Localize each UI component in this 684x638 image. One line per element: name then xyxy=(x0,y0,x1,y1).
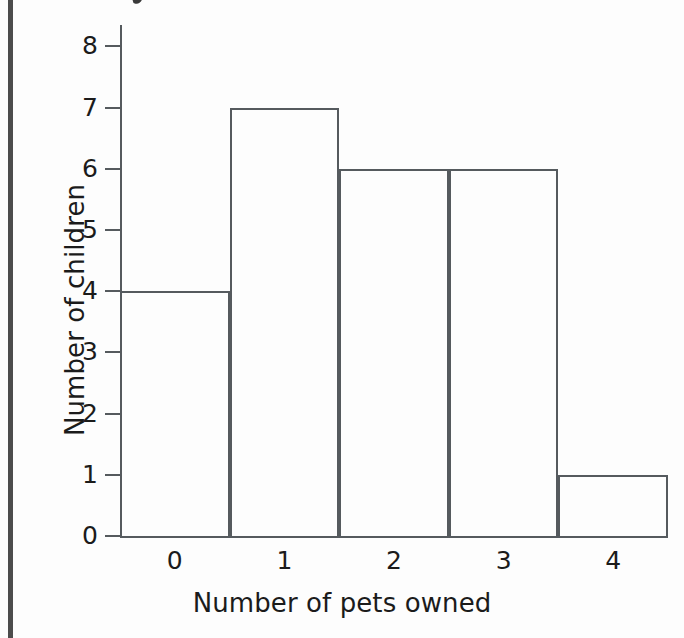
y-tick-mark xyxy=(105,351,121,353)
y-tick-mark xyxy=(105,107,121,109)
bar-2 xyxy=(339,169,449,538)
x-tick-label: 2 xyxy=(364,548,424,573)
x-tick-label: 3 xyxy=(474,548,534,573)
y-tick-mark xyxy=(105,229,121,231)
y-tick-mark xyxy=(105,290,121,292)
histogram-plot-area: 876543210 01234 Number of pets owned Num… xyxy=(0,0,684,638)
chart-page: 876543210 01234 Number of pets owned Num… xyxy=(0,0,684,638)
x-tick-label: 1 xyxy=(254,548,314,573)
y-axis-title: Number of children xyxy=(60,100,90,520)
bar-4 xyxy=(558,475,668,538)
bar-1 xyxy=(230,108,340,538)
y-tick-mark xyxy=(105,474,121,476)
x-tick-label: 0 xyxy=(145,548,205,573)
y-tick-mark xyxy=(105,535,121,537)
x-tick-label: 4 xyxy=(583,548,643,573)
x-axis-title: Number of pets owned xyxy=(0,588,684,618)
y-tick-label: 0 xyxy=(58,523,98,548)
y-tick-mark xyxy=(105,45,121,47)
y-tick-mark xyxy=(105,168,121,170)
bar-3 xyxy=(449,169,559,538)
y-tick-label: 8 xyxy=(58,33,98,58)
bar-0 xyxy=(120,291,230,538)
y-tick-mark xyxy=(105,413,121,415)
